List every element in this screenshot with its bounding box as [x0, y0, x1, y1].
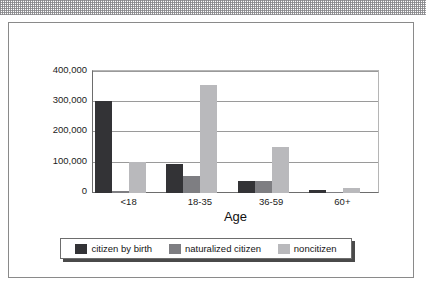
legend-item: noncitizen [278, 243, 337, 254]
bar [309, 190, 326, 193]
legend-swatch-icon [278, 244, 290, 254]
chart-plot-wrapper: 400,000 300,000 200,000 100,000 0 <18 18… [9, 23, 415, 279]
bar [129, 162, 146, 193]
legend-item-label: citizen by birth [91, 243, 152, 254]
x-tick-label: 36-59 [236, 196, 307, 207]
y-tick-label: 300,000 [13, 95, 87, 105]
legend-item-label: noncitizen [294, 243, 337, 254]
legend-swatch-icon [169, 244, 181, 254]
bar [255, 181, 272, 193]
legend-item: citizen by birth [75, 243, 152, 254]
chart-frame: 400,000 300,000 200,000 100,000 0 <18 18… [8, 22, 414, 278]
y-tick-label: 100,000 [13, 156, 87, 166]
scanned-page: 400,000 300,000 200,000 100,000 0 <18 18… [0, 0, 426, 293]
bar [238, 181, 255, 193]
legend-item-label: naturalized citizen [185, 243, 261, 254]
y-tick-label: 400,000 [13, 65, 87, 75]
bar-group [236, 71, 307, 193]
x-tick-label: 18-35 [164, 196, 235, 207]
x-axis-ticks: <18 18-35 36-59 60+ [93, 196, 378, 207]
bar [272, 147, 289, 193]
y-axis-ticks: 400,000 300,000 200,000 100,000 0 [9, 70, 87, 193]
y-tick-label: 200,000 [13, 125, 87, 135]
y-tick-label: 0 [13, 186, 87, 196]
legend-item: naturalized citizen [169, 243, 261, 254]
x-tick-label: <18 [93, 196, 164, 207]
x-axis-title: Age [92, 209, 379, 224]
bar [326, 192, 343, 193]
bar [112, 191, 129, 193]
bar [343, 188, 360, 193]
bar-group [307, 71, 378, 193]
halftone-band [0, 0, 426, 15]
legend-swatch-icon [75, 244, 87, 254]
x-tick-label: 60+ [307, 196, 378, 207]
bar [95, 101, 112, 193]
bar [183, 176, 200, 193]
bar [200, 85, 217, 193]
bar-group [164, 71, 235, 193]
chart-legend: citizen by birth naturalized citizen non… [60, 238, 352, 259]
bar [166, 164, 183, 193]
bar-series-layer [93, 71, 378, 193]
bar-group [93, 71, 164, 193]
